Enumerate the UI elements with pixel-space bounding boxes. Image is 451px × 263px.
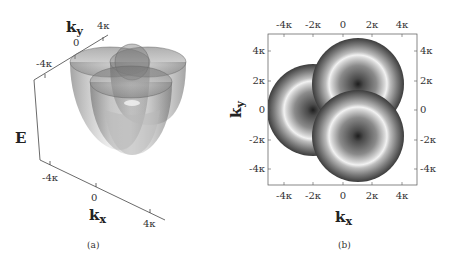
figure-canvas: -4κ 0 4κ -4κ 0 4κ ky E kx (a) -4κ: [0, 0, 451, 263]
kx-axis-line: [40, 160, 165, 220]
right-y-tick-3: -2κ: [420, 134, 437, 145]
right-y-tick-1: 2κ: [420, 75, 433, 86]
right-y-tick-2: 0: [420, 104, 426, 115]
panel-a: -4κ 0 4κ -4κ 0 4κ ky E kx (a): [15, 18, 186, 250]
bottom-x-tick-1: -2κ: [305, 190, 322, 201]
ky-tick-4: 4κ: [97, 20, 110, 31]
panel-b: -4κ -2κ 0 2κ 4κ -4κ -2κ 0 2κ 4κ 4κ 2κ 0 …: [227, 19, 437, 250]
left-y-tick-1: 2κ: [252, 75, 265, 86]
ky-tick-neg4: -4κ: [36, 58, 53, 69]
kx-axis-label: kx: [89, 206, 106, 226]
panel-b-caption: (b): [338, 240, 351, 250]
heatmap-circles: [267, 38, 404, 182]
left-y-tick-4: -4κ: [249, 163, 266, 174]
bottom-x-tick-3: 2κ: [366, 190, 379, 201]
bottom-x-tick-4: 4κ: [396, 190, 409, 201]
top-x-tick-3: 2κ: [366, 19, 379, 30]
kx-axis-label-b: kx: [335, 208, 352, 228]
panel-a-caption: (a): [87, 240, 99, 250]
ky-axis-label-b: ky: [227, 101, 247, 118]
kx-tick-0: 0: [91, 192, 97, 203]
left-y-tick-3: -2κ: [249, 134, 266, 145]
top-x-tick-0: -4κ: [276, 19, 293, 30]
bottom-x-tick-0: -4κ: [276, 190, 293, 201]
top-x-tick-1: -2κ: [305, 19, 322, 30]
e-axis-line: [34, 80, 40, 160]
top-x-tick-2: 0: [340, 19, 346, 30]
right-y-tick-0: 4κ: [420, 45, 433, 56]
left-y-tick-2: 0: [259, 104, 265, 115]
top-x-tick-4: 4κ: [396, 19, 409, 30]
bottom-x-tick-2: 0: [340, 190, 346, 201]
e-axis-label: E: [15, 129, 26, 147]
right-y-tick-4: -4κ: [420, 163, 437, 174]
ky-axis-label: ky: [66, 18, 83, 38]
kx-tick-4: 4κ: [143, 218, 156, 229]
left-y-tick-0: 4κ: [252, 45, 265, 56]
paraboloid-surfaces: [70, 44, 186, 155]
ky-tick-0: 0: [73, 37, 79, 48]
kx-tick-neg4: -4κ: [42, 172, 59, 183]
